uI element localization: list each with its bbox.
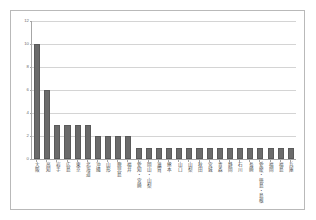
bar [247, 148, 253, 160]
bar [44, 90, 50, 159]
bar [227, 148, 233, 160]
bar [257, 148, 263, 160]
x-axis-tick-label: 長崎 [247, 162, 252, 172]
bar [217, 148, 223, 160]
bar [156, 148, 162, 160]
bar [166, 148, 172, 160]
bar [125, 136, 131, 159]
bar [85, 125, 91, 160]
x-axis-tick-label: 岡山・山梨 [145, 162, 150, 188]
bar [136, 148, 142, 160]
x-axis-tick-label: 兵庫 [288, 162, 293, 172]
x-axis-tick-label: 広島 [64, 162, 69, 172]
y-axis-tick-label: 0 [27, 157, 29, 161]
x-axis-tick-label: 福岡 [267, 162, 272, 172]
x-axis-tick-label: 高知 [44, 162, 49, 172]
x-axis-tick-label: 宮城 [206, 162, 211, 172]
bar [115, 136, 121, 159]
bar [176, 148, 182, 160]
x-axis-tick-label: 北海道 [85, 162, 90, 178]
y-axis-tick-label: 2 [27, 134, 29, 138]
bar [237, 148, 243, 160]
x-axis-tick-label: 沖縄 [95, 162, 100, 172]
x-axis-tick-label: 青森 [217, 162, 222, 172]
y-axis-tick-mark [30, 159, 32, 160]
bar [95, 136, 101, 159]
x-axis-tick-label: 鹿児島 [115, 162, 120, 178]
x-axis-tick-label: 岩手 [54, 162, 59, 172]
bar [64, 125, 70, 160]
bar [146, 148, 152, 160]
bar [196, 148, 202, 160]
plot-area: 024681012 [31, 21, 296, 160]
bar [207, 148, 213, 160]
bar-series [32, 21, 296, 159]
bar [75, 125, 81, 160]
bar [186, 148, 192, 160]
y-axis-tick-label: 12 [24, 19, 29, 23]
x-axis-tick-label: 滋賀 [156, 162, 161, 172]
bar [34, 44, 40, 159]
x-axis-tick-label: 大阪 [34, 162, 39, 172]
x-axis-tick-label: 熊本 [166, 162, 171, 172]
y-axis-tick-label: 6 [27, 88, 29, 92]
y-axis-tick-label: 4 [27, 111, 29, 115]
x-axis-tick-label: 秋田 [196, 162, 201, 172]
bar [268, 148, 274, 160]
bar-chart: 024681012 大阪高知岩手広島東京北海道沖縄山形鹿児島福井愛知・宮崎岡山・… [10, 10, 306, 211]
bar [54, 125, 60, 160]
x-axis-tick-label: 愛媛・徳島・島根 [257, 162, 262, 204]
x-axis-labels: 大阪高知岩手広島東京北海道沖縄山形鹿児島福井愛知・宮崎岡山・山梨滋賀熊本山口山梨… [31, 162, 296, 220]
x-axis-tick-label: 静岡 [227, 162, 232, 172]
y-axis-tick-label: 10 [24, 42, 29, 46]
bar [288, 148, 294, 160]
x-axis-tick-label: 山形 [105, 162, 110, 172]
y-axis-tick-label: 8 [27, 65, 29, 69]
x-axis-tick-label: 東京 [74, 162, 79, 172]
x-axis-tick-label: 石川 [237, 162, 242, 172]
x-axis-tick-label: 福島 [277, 162, 282, 172]
x-axis-tick-label: 山口 [176, 162, 181, 172]
x-axis-tick-label: 福井 [125, 162, 130, 172]
x-axis-tick-label: 愛知・宮崎 [135, 162, 140, 188]
bar [105, 136, 111, 159]
bar [278, 148, 284, 160]
x-axis-tick-label: 山梨 [186, 162, 191, 172]
